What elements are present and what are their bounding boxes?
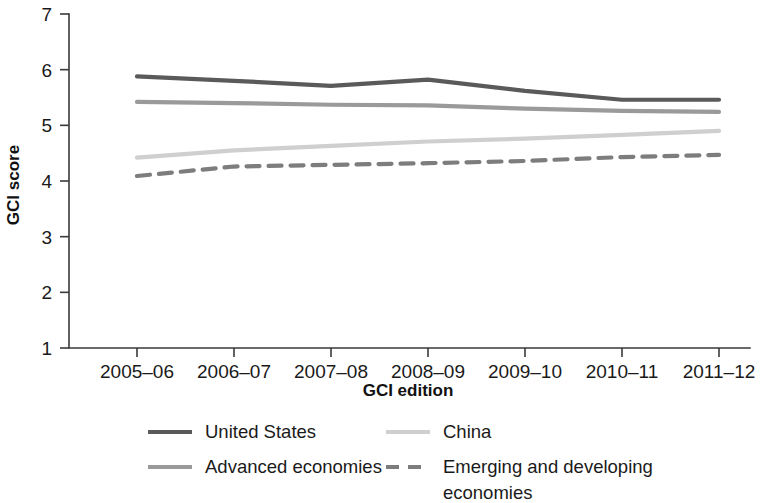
y-tick-label: 7 xyxy=(41,4,52,25)
legend-label-0: United States xyxy=(205,421,316,442)
x-tick-label: 2005–06 xyxy=(100,361,174,382)
x-axis-title: GCI edition xyxy=(363,381,454,400)
y-tick-label: 5 xyxy=(41,115,52,136)
y-tick-label: 4 xyxy=(41,171,52,192)
x-tick-label: 2010–11 xyxy=(586,361,659,382)
y-axis-title: GCI score xyxy=(4,145,23,225)
y-tick-label: 3 xyxy=(41,227,52,248)
legend-label-3: Emerging and developing xyxy=(443,456,653,477)
x-tick-label: 2007–08 xyxy=(294,361,368,382)
x-tick-label: 2011–12 xyxy=(683,361,756,382)
gci-score-line-chart: 1234567 2005–062006–072007–082008–092009… xyxy=(0,0,763,503)
chart-background xyxy=(0,0,763,503)
x-tick-label: 2009–10 xyxy=(488,361,562,382)
y-tick-label: 6 xyxy=(41,60,52,81)
legend-label-1: Advanced economies xyxy=(205,456,382,477)
legend-label-3-line2: economies xyxy=(443,482,532,503)
y-tick-label: 1 xyxy=(41,338,52,359)
x-tick-label: 2008–09 xyxy=(391,361,465,382)
x-tick-label: 2006–07 xyxy=(197,361,271,382)
y-tick-label: 2 xyxy=(41,282,52,303)
legend-label-2: China xyxy=(443,421,492,442)
